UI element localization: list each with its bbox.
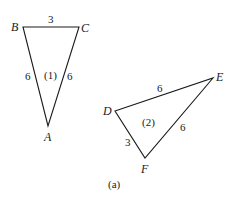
side-bc-length: 3 bbox=[48, 13, 54, 25]
figure-caption: (a) bbox=[108, 178, 121, 191]
vertex-c-label: C bbox=[81, 21, 90, 35]
side-ca-length: 6 bbox=[67, 70, 73, 82]
triangle-diagram: B C A 3 6 6 (1) D E F 6 6 3 (2) (a) bbox=[0, 0, 236, 198]
vertex-e-label: E bbox=[215, 70, 224, 84]
triangle-1: B C A 3 6 6 (1) bbox=[11, 13, 90, 144]
vertex-a-label: A bbox=[43, 130, 52, 144]
side-ba-length: 6 bbox=[25, 70, 31, 82]
vertex-f-label: F bbox=[140, 162, 149, 176]
triangle-2: D E F 6 6 3 (2) bbox=[102, 70, 224, 176]
triangle-1-label: (1) bbox=[44, 69, 57, 82]
side-df-length: 3 bbox=[125, 136, 131, 148]
vertex-b-label: B bbox=[11, 20, 19, 34]
side-de-length: 6 bbox=[157, 82, 163, 94]
vertex-d-label: D bbox=[102, 104, 112, 118]
side-ef-length: 6 bbox=[180, 121, 186, 133]
triangle-2-label: (2) bbox=[142, 116, 155, 129]
